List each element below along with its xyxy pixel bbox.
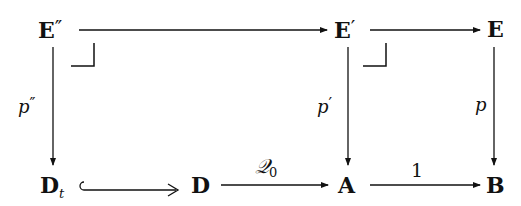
- node-E: E: [487, 18, 504, 40]
- node-base: A: [338, 172, 355, 198]
- label-one: 1: [411, 161, 423, 180]
- label-subscript: 0: [269, 165, 277, 180]
- label-p-prime: p′: [317, 96, 332, 116]
- label-base: p: [475, 94, 487, 115]
- node-D: D: [191, 174, 210, 196]
- node-base: E: [487, 16, 504, 42]
- node-prime: ′: [351, 16, 356, 40]
- pullback-corner-1: [71, 43, 94, 66]
- label-base: p: [317, 96, 329, 117]
- label-prime: ″: [30, 94, 36, 113]
- label-Q0: 𝒬0: [255, 156, 277, 179]
- pullback-corner-2: [363, 43, 386, 66]
- label-base: p: [18, 96, 30, 117]
- label-base: 1: [411, 159, 423, 181]
- node-B: B: [486, 174, 505, 196]
- node-subscript: t: [59, 186, 64, 201]
- node-base: D: [40, 172, 59, 198]
- node-E-double-prime: E″: [38, 18, 62, 41]
- hook-arrow-Dt-to-D: [80, 182, 176, 190]
- label-prime: ′: [329, 94, 333, 113]
- node-base: D: [191, 172, 210, 198]
- node-D-t: Dt: [40, 174, 64, 200]
- node-base: E: [38, 17, 55, 43]
- node-A: A: [338, 174, 355, 196]
- node-E-prime: E′: [334, 18, 355, 41]
- label-base: 𝒬: [255, 154, 269, 178]
- label-p: p: [475, 96, 487, 114]
- label-p-double-prime: p″: [18, 96, 36, 116]
- node-base: E: [334, 17, 351, 43]
- node-prime: ″: [55, 16, 62, 40]
- node-base: B: [486, 172, 505, 198]
